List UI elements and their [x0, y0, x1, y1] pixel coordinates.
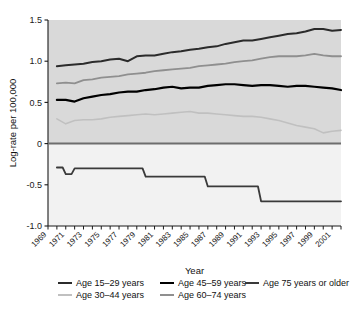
x-tick-label: 1997	[278, 230, 297, 249]
line-chart: 1.51.00.50-0.5-1.01969197119731975197719…	[0, 0, 355, 310]
y-tick-label: 1.5	[29, 15, 42, 25]
x-tick-label: 1991	[225, 230, 244, 249]
y-tick-label: 0.5	[29, 98, 42, 108]
legend-label-1: Age 45–59 years	[178, 278, 247, 288]
x-axis-title: Year	[185, 265, 204, 276]
y-axis-title: Log-rate per 100,000	[7, 79, 18, 168]
legend-label-3: Age 30–44 years	[76, 290, 145, 300]
x-tick-label: 2001	[314, 230, 333, 249]
x-tick-label: 1979	[118, 230, 137, 249]
y-tick-label: -0.5	[26, 180, 42, 190]
x-tick-label: 1987	[189, 230, 208, 249]
y-tick-label: -1.0	[26, 221, 42, 231]
x-tick-label: 1983	[154, 230, 173, 249]
x-tick-label: 1993	[243, 230, 262, 249]
x-tick-label: 1971	[47, 230, 66, 249]
plot-background-lower	[48, 144, 341, 226]
chart-figure: 1.51.00.50-0.5-1.01969197119731975197719…	[0, 0, 355, 310]
x-tick-label: 1985	[172, 230, 191, 249]
x-tick-label: 1973	[65, 230, 84, 249]
x-tick-label: 1977	[100, 230, 119, 249]
x-tick-label: 1975	[83, 230, 102, 249]
x-tick-label: 1995	[260, 230, 279, 249]
legend-label-4: Age 60–74 years	[178, 290, 247, 300]
y-tick-label: 0	[37, 139, 42, 149]
x-tick-label: 1981	[136, 230, 155, 249]
x-tick-label: 1999	[296, 230, 315, 249]
legend-label-2: Age 75 years or older	[263, 278, 349, 288]
x-tick-label: 1969	[29, 230, 48, 249]
legend-label-0: Age 15–29 years	[76, 278, 145, 288]
y-tick-label: 1.0	[29, 56, 42, 66]
x-tick-label: 1989	[207, 230, 226, 249]
